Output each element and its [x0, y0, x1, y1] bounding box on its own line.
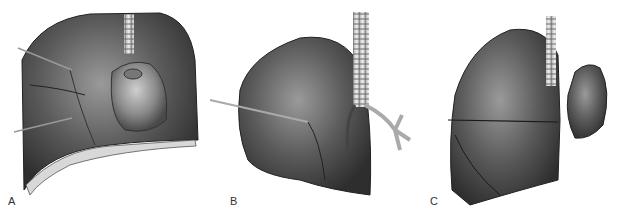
panel-b-illustration [210, 12, 410, 195]
figure-canvas [0, 0, 630, 219]
panel-label-b: B [230, 195, 237, 207]
trachea-a [124, 14, 134, 54]
detached-lobe [567, 65, 607, 138]
panel-a-illustration [14, 13, 198, 195]
bronchi [365, 105, 410, 150]
panel-c-illustration [448, 16, 607, 205]
panel-label-a: A [8, 195, 15, 207]
trachea-c [546, 16, 556, 86]
panel-label-c: C [430, 195, 438, 207]
trachea-b [353, 12, 369, 107]
